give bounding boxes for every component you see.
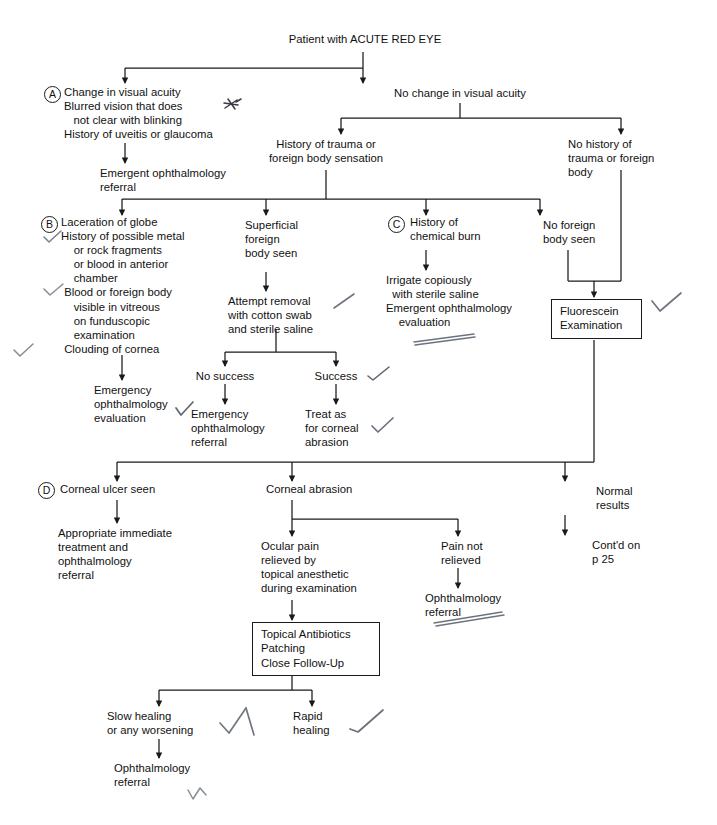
section-tag-d: D bbox=[38, 482, 55, 499]
node-success: Success bbox=[296, 369, 376, 383]
node-emergent-ophthalmology-referral: Emergent ophthalmology referral bbox=[100, 166, 290, 194]
node-pain-not-relieved: Pain not relieved bbox=[441, 539, 541, 567]
node-no-foreign-body-seen: No foreign body seen bbox=[543, 218, 643, 246]
node-history-of-trauma: History of trauma or foreign body sensat… bbox=[246, 137, 406, 165]
node-history-of-chemical-burn: History of chemical burn bbox=[410, 215, 540, 243]
section-tag-b: B bbox=[41, 216, 58, 233]
node-topical-antibiotics-box: Topical Antibiotics Patching Close Follo… bbox=[252, 622, 380, 676]
node-pain-not-relieved-action: Ophthalmology referral bbox=[425, 591, 555, 619]
node-root: Patient with ACUTE RED EYE bbox=[265, 32, 465, 46]
node-corneal-ulcer-seen: Corneal ulcer seen bbox=[60, 482, 220, 496]
flowchart-page: Patient with ACUTE RED EYE A Change in v… bbox=[0, 0, 717, 825]
node-no-success: No success bbox=[175, 369, 275, 383]
node-success-action: Treat as for corneal abrasion bbox=[305, 407, 415, 449]
node-attempt-removal: Attempt removal with cotton swab and ste… bbox=[228, 294, 378, 336]
node-irrigate-copiously: Irrigate copiously with sterile saline E… bbox=[386, 273, 556, 329]
node-ulcer-action: Appropriate immediate treatment and opht… bbox=[58, 526, 238, 582]
node-no-success-action: Emergency ophthalmology referral bbox=[191, 407, 311, 449]
node-ocular-pain-relieved: Ocular pain relieved by topical anesthet… bbox=[261, 539, 421, 595]
node-contd-on-page: Cont'd on p 25 bbox=[592, 538, 692, 566]
node-rapid-healing: Rapid healing bbox=[293, 709, 383, 737]
node-change-in-visual-acuity: Change in visual acuity Blurred vision t… bbox=[64, 85, 284, 141]
node-slow-healing: Slow healing or any worsening bbox=[107, 709, 247, 737]
node-no-change-in-visual-acuity: No change in visual acuity bbox=[360, 86, 560, 100]
section-tag-a: A bbox=[44, 86, 61, 103]
node-fluorescein-examination: Fluorescein Examination bbox=[551, 299, 642, 339]
node-normal-results: Normal results bbox=[596, 484, 686, 512]
node-superficial-foreign-body-seen: Superficial foreign body seen bbox=[245, 218, 365, 260]
node-corneal-abrasion: Corneal abrasion bbox=[266, 482, 416, 496]
section-tag-c: C bbox=[388, 216, 405, 233]
node-slow-healing-action: Ophthalmology referral bbox=[114, 761, 244, 789]
node-no-history-of-trauma: No history of trauma or foreign body bbox=[568, 137, 688, 179]
